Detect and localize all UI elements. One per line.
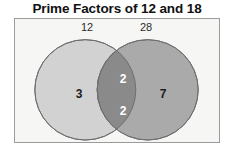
set-label-left: 12 (67, 21, 107, 33)
set-label-right: 28 (126, 21, 166, 33)
region-value-left-only: 3 (67, 87, 91, 101)
diagram-panel: 12 28 3 7 2 2 (14, 18, 220, 143)
region-value-right-only: 7 (151, 87, 175, 101)
region-value-intersection-second: 2 (111, 104, 135, 118)
region-value-intersection-first: 2 (111, 72, 135, 86)
page-title: Prime Factors of 12 and 18 (0, 1, 234, 16)
